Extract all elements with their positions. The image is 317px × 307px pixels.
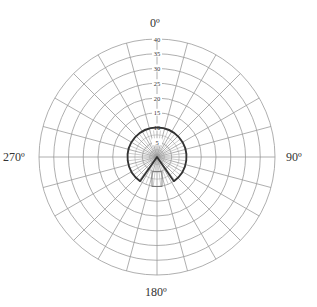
svg-text:25: 25 [154,80,161,87]
svg-text:35: 35 [154,50,161,57]
angle-label-270: 270º [3,150,25,165]
svg-text:30: 30 [154,65,161,72]
svg-text:40: 40 [154,36,161,43]
angle-label-180: 180º [145,285,167,300]
svg-text:15: 15 [154,109,161,116]
angle-label-90: 90º [286,150,302,165]
polar-chart: 510152025303540 [0,0,317,307]
svg-text:5: 5 [155,139,158,146]
svg-text:20: 20 [154,95,161,102]
angle-label-0: 0º [150,16,160,31]
